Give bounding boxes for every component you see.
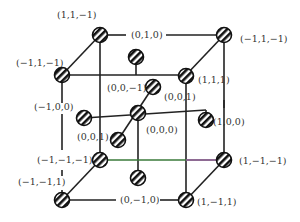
edge-coordinate-label: (0,0,1)	[164, 91, 196, 102]
lattice-node	[199, 113, 214, 128]
lattice-node	[179, 193, 194, 208]
lattice-node	[93, 153, 108, 168]
lattice-node	[129, 50, 144, 65]
node-coordinate-label: (−1,−1,1)	[18, 176, 66, 187]
node-coordinate-label: (0,0,1)	[77, 131, 109, 142]
node-coordinate-label: (−1,1,−1)	[16, 57, 64, 68]
lattice-node	[179, 69, 194, 84]
lattice-node	[55, 193, 70, 208]
lattice-node	[55, 68, 70, 83]
lattice-node	[93, 28, 108, 43]
node-coordinate-label: (1,1,−1)	[57, 9, 97, 20]
cubic-lattice-diagram: (1,1,−1)(−1,1,−1)(−1,1,−1)(1,1,1)(0,0,−1…	[0, 0, 300, 222]
lattice-node	[217, 153, 232, 168]
lattice-node	[77, 111, 92, 126]
node-coordinate-label: (1,−1,1)	[197, 196, 237, 207]
coordinate-labels: (1,1,−1)(−1,1,−1)(−1,1,−1)(1,1,1)(0,0,−1…	[16, 9, 288, 207]
node-coordinate-label: (−1,1,−1)	[240, 33, 288, 44]
node-coordinate-label: (0,0,0)	[146, 124, 178, 135]
lattice-node	[111, 133, 126, 148]
node-coordinate-label: (0,0,−1)	[107, 82, 147, 93]
node-coordinate-label: (1,0,0)	[213, 116, 245, 127]
diagram-svg: (1,1,−1)(−1,1,−1)(−1,1,−1)(1,1,1)(0,0,−1…	[0, 0, 300, 222]
lattice-node	[146, 80, 161, 95]
lattice-node	[131, 171, 146, 186]
edge-coordinate-label: (0,1,0)	[131, 29, 163, 40]
node-coordinate-label: (1,−1,−1)	[239, 155, 287, 166]
edge-coordinate-label: (0,−1,0)	[120, 194, 160, 205]
node-coordinate-label: (−1,−1,−1)	[37, 154, 92, 165]
lattice-node	[131, 106, 146, 121]
node-coordinate-label: (1,1,1)	[198, 74, 230, 85]
node-coordinate-label: (−1,0,0)	[34, 101, 74, 112]
lattice-node	[217, 28, 232, 43]
